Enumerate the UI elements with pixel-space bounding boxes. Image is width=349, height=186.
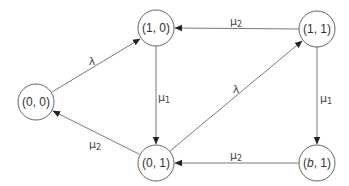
node-b-1: (b, 1) [299, 145, 335, 181]
node-label: (b, 1) [303, 156, 331, 170]
node-label: (0, 0) [22, 95, 50, 109]
node-0-1: (0, 1) [138, 145, 174, 181]
node-label: (0, 1) [142, 156, 170, 170]
edge-label-mu2-01-00: μ2 [89, 138, 101, 152]
edge-label-lambda-00-10: λ [89, 55, 96, 68]
node-1-0: (1, 0) [138, 10, 174, 46]
edge-label-mu1-10-01: μ1 [158, 91, 170, 105]
edge-label-lambda-01-11: λ [233, 83, 240, 96]
node-label: (1, 1) [303, 22, 331, 36]
node-0-0: (0, 0) [18, 84, 54, 120]
edge-00-to-10 [52, 39, 140, 92]
edge-label-mu2-b1-01: μ2 [230, 149, 242, 163]
node-1-1: (1, 1) [299, 11, 335, 47]
edge-label-mu2-11-10: μ2 [230, 15, 242, 29]
edge-label-mu1-11-b1: μ1 [320, 92, 332, 106]
edge-01-to-11 [170, 41, 302, 151]
state-diagram: (0, 0) (1, 0) (0, 1) (1, 1) (b, 1) λ μ1 … [0, 0, 349, 186]
node-label: (1, 0) [142, 21, 170, 35]
